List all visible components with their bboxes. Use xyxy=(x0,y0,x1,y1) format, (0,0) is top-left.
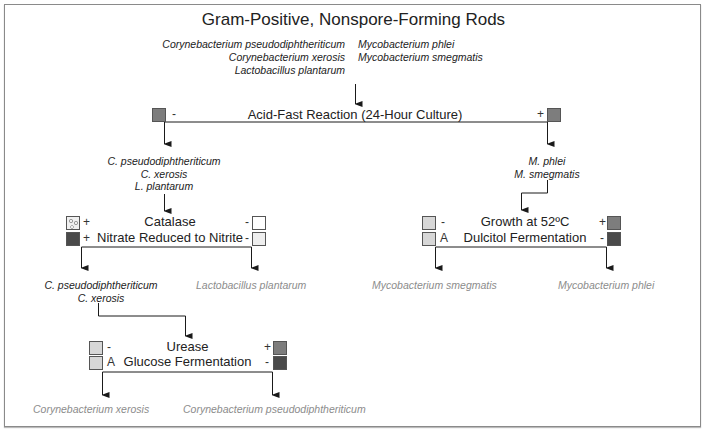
dulcitol-negative-color-box xyxy=(607,232,621,246)
organism-label: L. plantarum xyxy=(84,180,244,193)
dulcitol-right-sign: - xyxy=(600,231,604,245)
acid-fast-test-label: Acid-Fast Reaction (24-Hour Culture) xyxy=(180,107,530,122)
urease-right-result: Corynebacterium pseudodiphtheriticum xyxy=(183,403,366,415)
organism-label: M. smegmatis xyxy=(497,168,597,181)
glucose-left-sign: A xyxy=(107,355,115,369)
acid-fast-positive-sign: + xyxy=(537,107,544,121)
organism-label: Corynebacterium xerosis xyxy=(162,51,345,64)
start-organisms-left: Corynebacterium pseudodiphtheriticum Cor… xyxy=(162,38,345,77)
nitrate-negative-color-box xyxy=(252,232,266,246)
glucose-test-label: Glucose Fermentation xyxy=(115,354,260,369)
catalase-positive-bubbles-box xyxy=(66,216,80,230)
organism-label: Mycobacterium smegmatis xyxy=(358,51,483,64)
glucose-right-sign: - xyxy=(265,355,269,369)
neg-branch-organisms: C. pseudodiphtheriticum C. xerosis L. pl… xyxy=(84,155,244,193)
catalase-left-sign: + xyxy=(83,215,90,229)
organism-label: C. pseudodiphtheriticum xyxy=(84,155,244,168)
catalase-test-label: Catalase xyxy=(90,214,250,229)
growth-left-result: Mycobacterium smegmatis xyxy=(372,279,497,291)
growth-right-result: Mycobacterium phlei xyxy=(558,279,654,291)
acid-fast-positive-color-box xyxy=(547,108,561,122)
growth-left-sign: - xyxy=(441,215,445,229)
glucose-negative-color-box xyxy=(273,356,287,370)
nitrate-right-sign: - xyxy=(245,231,249,245)
dulcitol-acid-color-box xyxy=(422,232,436,246)
organism-label: Corynebacterium pseudodiphtheriticum xyxy=(162,38,345,51)
catalase-left-result: C. pseudodiphtheriticum C. xerosis xyxy=(38,279,164,304)
diagram-title: Gram-Positive, Nonspore-Forming Rods xyxy=(0,10,707,30)
catalase-right-result: Lactobacillus plantarum xyxy=(196,279,306,291)
start-organisms-right: Mycobacterium phlei Mycobacterium smegma… xyxy=(358,38,483,64)
growth-test-label: Growth at 52ºC xyxy=(450,214,600,229)
dulcitol-left-sign: A xyxy=(440,231,448,245)
urease-right-sign: + xyxy=(264,340,271,354)
pos-branch-organisms: M. phlei M. smegmatis xyxy=(497,155,597,180)
nitrate-test-label: Nitrate Reduced to Nitrite xyxy=(90,230,250,245)
organism-label: Lactobacillus plantarum xyxy=(162,64,345,77)
nitrate-left-sign: + xyxy=(83,231,90,245)
growth-positive-color-box xyxy=(607,216,621,230)
urease-positive-color-box xyxy=(273,341,287,355)
organism-label: C. xerosis xyxy=(38,292,164,305)
urease-test-label: Urease xyxy=(115,339,260,354)
urease-negative-color-box xyxy=(89,341,103,355)
organism-label: C. xerosis xyxy=(84,168,244,181)
dulcitol-test-label: Dulcitol Fermentation xyxy=(450,230,600,245)
organism-label: M. phlei xyxy=(497,155,597,168)
growth-right-sign: + xyxy=(599,215,606,229)
nitrate-positive-color-box xyxy=(66,232,80,246)
acid-fast-negative-sign: - xyxy=(172,107,176,121)
organism-label: C. pseudodiphtheriticum xyxy=(38,279,164,292)
acid-fast-negative-color-box xyxy=(152,108,166,122)
urease-left-sign: - xyxy=(107,340,111,354)
catalase-right-sign: - xyxy=(245,215,249,229)
glucose-acid-color-box xyxy=(89,356,103,370)
organism-label: Mycobacterium phlei xyxy=(358,38,483,51)
urease-left-result: Corynebacterium xerosis xyxy=(33,403,149,415)
growth-negative-color-box xyxy=(422,216,436,230)
catalase-negative-color-box xyxy=(252,216,266,230)
